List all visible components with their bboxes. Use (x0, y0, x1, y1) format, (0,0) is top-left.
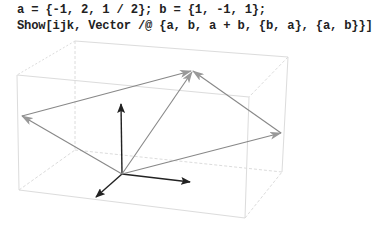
vector-b-then-a (193, 71, 281, 133)
j-axis-arrow (96, 174, 122, 197)
k-axis-arrow (121, 104, 122, 174)
ijk-axes (96, 104, 190, 197)
vector-a (22, 116, 122, 174)
i-axis-arrow (122, 174, 190, 182)
